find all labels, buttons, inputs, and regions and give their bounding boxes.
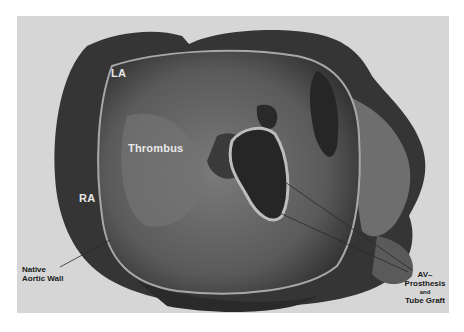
label-la: LA (111, 67, 126, 79)
label-av-prosthesis: AV– Prosthesis and Tube Graft (400, 270, 450, 305)
label-ra: RA (79, 192, 95, 204)
label-native-aortic-wall: Native Aortic Wall (22, 265, 63, 283)
heart-specimen-illustration (17, 16, 449, 313)
label-thrombus: Thrombus (128, 142, 183, 154)
specimen-photo (17, 16, 449, 313)
